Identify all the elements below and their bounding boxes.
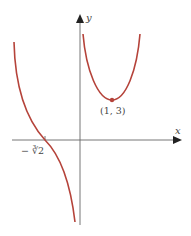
left-branch-curve [14,42,75,222]
local-min-point [110,98,114,102]
graph-canvas: y x (1, 3) − ∛2 [0,0,191,236]
x-intercept-label: − ∛2 [21,145,44,156]
local-min-label: (1, 3) [100,105,126,116]
y-axis-arrow-icon [76,14,84,23]
x-axis-label: x [175,125,181,136]
y-axis-label: y [85,12,92,23]
x-axis-arrow-icon [173,136,182,144]
right-branch-curve [83,34,140,100]
